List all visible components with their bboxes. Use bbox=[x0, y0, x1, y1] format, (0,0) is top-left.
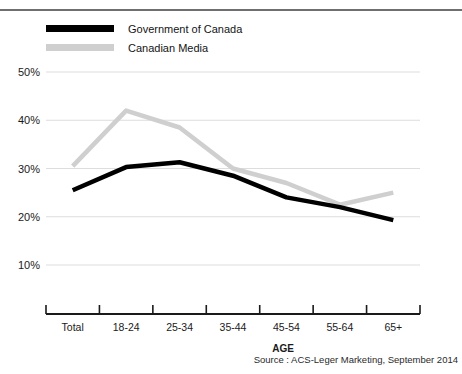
x-tick-label: 55-64 bbox=[326, 321, 353, 333]
y-tick-labels: 10%20%30%40%50% bbox=[18, 66, 40, 271]
y-tick-label: 20% bbox=[18, 211, 40, 223]
y-tick-label: 10% bbox=[18, 259, 40, 271]
plot-area: 10%20%30%40%50% Total18-2425-3435-4445-5… bbox=[0, 0, 462, 374]
x-tick-label: 65+ bbox=[384, 321, 402, 333]
x-tick-label: 25-34 bbox=[166, 321, 193, 333]
source-note: Source : ACS-Leger Marketing, September … bbox=[254, 354, 458, 365]
y-tick-label: 30% bbox=[18, 163, 40, 175]
x-axis bbox=[46, 305, 420, 314]
x-tick-label: 35-44 bbox=[220, 321, 247, 333]
series-government-of-canada bbox=[73, 162, 394, 220]
y-tick-label: 40% bbox=[18, 114, 40, 126]
line-chart-svg: 10%20%30%40%50% Total18-2425-3435-4445-5… bbox=[0, 0, 462, 374]
x-tick-label: 18-24 bbox=[113, 321, 140, 333]
x-tick-label: Total bbox=[62, 321, 84, 333]
y-tick-label: 50% bbox=[18, 66, 40, 78]
x-tick-label: 45-54 bbox=[273, 321, 300, 333]
series-canadian-media bbox=[73, 111, 394, 205]
chart-figure: Government of Canada Canadian Media 10%2… bbox=[0, 0, 462, 374]
x-tick-labels: Total18-2425-3435-4445-5455-6465+ bbox=[62, 321, 403, 333]
x-axis-title: AGE bbox=[272, 343, 294, 354]
